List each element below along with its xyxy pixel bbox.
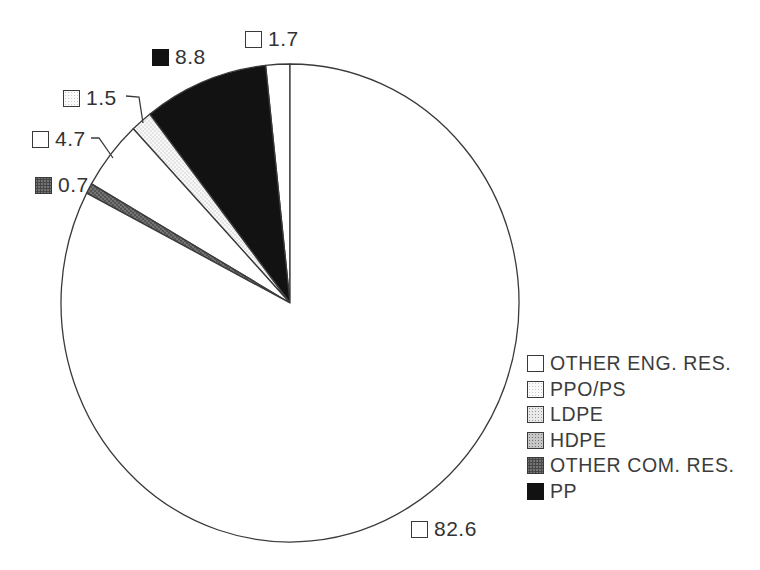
- legend-item-other-com-res: OTHER COM. RES.: [527, 457, 735, 474]
- legend-label-other-eng-res: OTHER ENG. RES.: [550, 355, 731, 372]
- pie-slices: [61, 64, 519, 542]
- swatch-other-com-res: [35, 177, 52, 194]
- value-label-other-eng-res: 1.7: [245, 27, 299, 51]
- value-label-other-com-res: 0.7: [35, 173, 89, 197]
- value-text-pp: 8.8: [175, 45, 206, 69]
- legend-label-other-com-res: OTHER COM. RES.: [550, 457, 735, 474]
- legend-label-hdpe: HDPE: [550, 432, 607, 449]
- legend-swatch-other-com-res: [527, 457, 544, 474]
- leader-line-ppo-ps: [126, 96, 143, 123]
- legend-swatch-hdpe: [527, 432, 544, 449]
- legend-item-ppo-ps: PPO/PS: [527, 381, 735, 398]
- value-text-ldpe: 4.7: [55, 127, 86, 151]
- legend-swatch-ldpe: [527, 406, 544, 423]
- swatch-ppo-ps: [63, 90, 80, 107]
- value-text-ppo-ps: 1.5: [86, 86, 117, 110]
- pie-chart-figure: 1.7 8.8 1.5 4.7 0.7 82.6 OTHER ENG. RES.…: [0, 0, 760, 570]
- legend: OTHER ENG. RES. PPO/PS LDPE HDPE OTHER C…: [527, 355, 735, 500]
- swatch-other-eng-res: [245, 31, 262, 48]
- value-label-pp: 8.8: [152, 45, 206, 69]
- legend-label-ldpe: LDPE: [550, 406, 603, 423]
- legend-label-ppo-ps: PPO/PS: [550, 381, 626, 398]
- value-label-hdpe: 82.6: [411, 517, 477, 541]
- legend-label-pp: PP: [550, 483, 577, 500]
- legend-item-hdpe: HDPE: [527, 432, 735, 449]
- value-label-ldpe: 4.7: [32, 127, 86, 151]
- legend-swatch-pp: [527, 483, 544, 500]
- value-text-other-com-res: 0.7: [58, 173, 89, 197]
- legend-swatch-ppo-ps: [527, 381, 544, 398]
- value-label-ppo-ps: 1.5: [63, 86, 117, 110]
- legend-swatch-other-eng-res: [527, 355, 544, 372]
- swatch-ldpe: [32, 131, 49, 148]
- legend-item-ldpe: LDPE: [527, 406, 735, 423]
- swatch-hdpe: [411, 521, 428, 538]
- swatch-pp: [152, 49, 169, 66]
- value-text-other-eng-res: 1.7: [268, 27, 299, 51]
- legend-item-pp: PP: [527, 483, 735, 500]
- value-text-hdpe: 82.6: [434, 517, 477, 541]
- legend-item-other-eng-res: OTHER ENG. RES.: [527, 355, 735, 372]
